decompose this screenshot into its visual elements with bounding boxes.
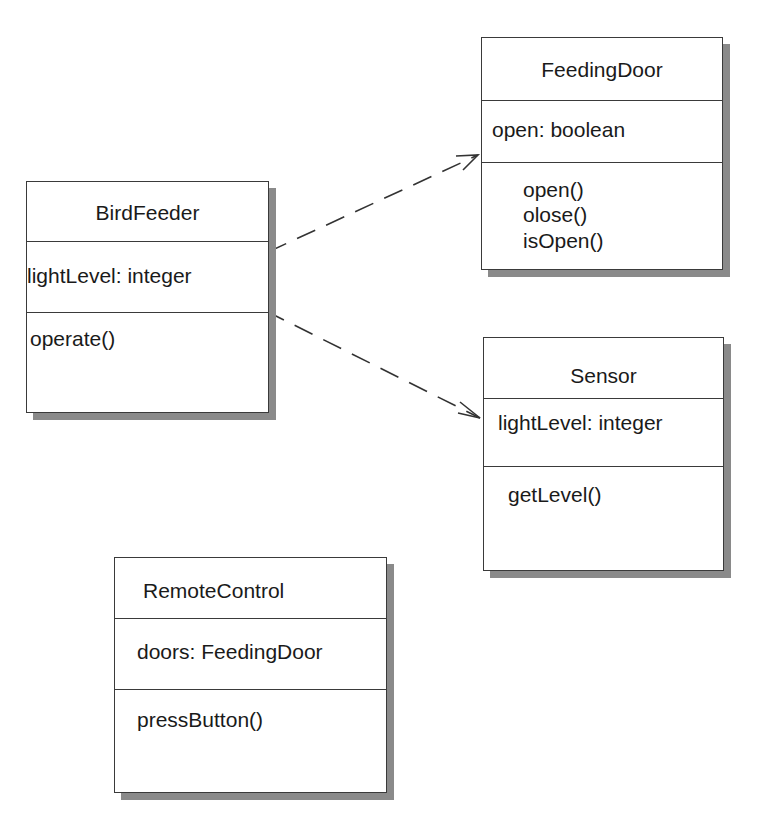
operation: isOpen() xyxy=(523,226,722,255)
dependency-birdfeeder-feedingdoor xyxy=(268,155,478,252)
operations-section: pressButton() xyxy=(115,690,386,732)
class-name: FeedingDoor xyxy=(482,38,722,101)
attribute: lightLevel: integer xyxy=(498,411,663,435)
operation: olose() xyxy=(523,200,722,229)
operations-section: open() olose() isOpen() xyxy=(482,163,722,255)
attribute: lightLevel: integer xyxy=(27,264,192,288)
dependency-birdfeeder-sensor xyxy=(266,311,480,418)
class-name: RemoteControl xyxy=(115,558,386,619)
class-remotecontrol: RemoteControl doors: FeedingDoor pressBu… xyxy=(114,557,387,793)
operation: getLevel() xyxy=(484,467,723,507)
arrowhead-sensor xyxy=(458,402,480,418)
class-birdfeeder: BirdFeeder lightLevel: integer operate() xyxy=(26,181,269,413)
class-name: Sensor xyxy=(484,338,723,399)
attribute: doors: FeedingDoor xyxy=(137,640,323,664)
attribute: open: boolean xyxy=(492,118,625,142)
operations-section: getLevel() xyxy=(484,467,723,507)
attributes-section: lightLevel: integer xyxy=(27,242,268,313)
class-feedingdoor: FeedingDoor open: boolean open() olose()… xyxy=(481,37,723,270)
operation: pressButton() xyxy=(115,690,386,732)
class-sensor: Sensor lightLevel: integer getLevel() xyxy=(483,337,724,571)
attributes-section: lightLevel: integer xyxy=(484,399,723,467)
attributes-section: doors: FeedingDoor xyxy=(115,619,386,690)
arrowhead-feedingdoor xyxy=(456,155,478,170)
attributes-section: open: boolean xyxy=(482,101,722,163)
operations-section: operate() xyxy=(27,313,268,351)
operation: operate() xyxy=(27,313,268,351)
class-name: BirdFeeder xyxy=(27,182,268,242)
